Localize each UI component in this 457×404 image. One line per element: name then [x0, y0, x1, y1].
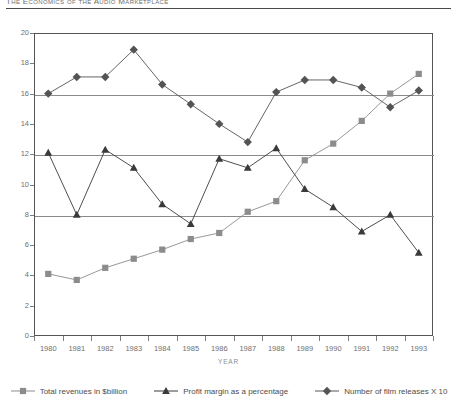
data-point-marker [187, 220, 195, 227]
y-axis-tick-label: 8 [7, 211, 29, 219]
data-point-marker [74, 277, 80, 283]
x-axis-tick [376, 336, 377, 341]
chart-container: 02468101214161820 1980198119821983198419… [0, 11, 457, 371]
y-axis-tick-label: 10 [7, 181, 29, 189]
legend-square-icon [10, 385, 36, 397]
data-point-marker [415, 86, 423, 94]
series-line [48, 74, 419, 280]
data-point-marker [358, 83, 366, 91]
y-axis-tick-label: 6 [7, 241, 29, 249]
legend-triangle-icon [153, 385, 179, 397]
y-axis-tick-label: 12 [7, 150, 29, 158]
x-axis-tick [291, 336, 292, 341]
y-axis-tick-label: 0 [7, 332, 29, 340]
data-point-marker [329, 203, 337, 210]
data-point-marker [73, 73, 81, 81]
x-axis-tick [405, 336, 406, 341]
data-point-marker [329, 76, 337, 84]
data-point-marker [273, 198, 279, 204]
legend-item[interactable]: Profit margin as a percentage [153, 385, 288, 397]
x-axis-tick [34, 336, 35, 341]
legend-item[interactable]: Number of film releases X 10 [314, 385, 447, 397]
x-axis-tick [205, 336, 206, 341]
series-diamond [44, 45, 423, 146]
data-point-marker [272, 88, 280, 96]
y-axis-tick-label: 2 [7, 302, 29, 310]
x-axis-tick [433, 336, 434, 341]
data-point-marker [130, 164, 138, 171]
chart-legend: Total revenues in $billionProfit margin … [0, 381, 457, 401]
data-point-marker [44, 149, 52, 156]
legend-diamond-icon [314, 385, 340, 397]
y-axis-tick-label: 14 [7, 120, 29, 128]
x-axis-tick [177, 336, 178, 341]
y-axis-tick-label: 20 [7, 29, 29, 37]
data-point-marker [358, 227, 366, 234]
data-point-marker [330, 140, 336, 146]
legend-label: Total revenues in $billion [40, 387, 128, 396]
data-point-marker [386, 103, 394, 111]
x-axis-tick [63, 336, 64, 341]
data-point-marker [159, 247, 165, 253]
data-point-marker [102, 265, 108, 271]
y-axis-tick-label: 16 [7, 90, 29, 98]
x-axis-tick [319, 336, 320, 341]
data-point-marker [301, 76, 309, 84]
data-point-marker [323, 387, 331, 395]
data-point-marker [301, 185, 309, 192]
data-point-marker [387, 91, 393, 97]
data-point-marker [245, 209, 251, 215]
y-axis-tick-label: 4 [7, 271, 29, 279]
x-axis-tick [148, 336, 149, 341]
x-axis-tick [262, 336, 263, 341]
x-axis-tick [91, 336, 92, 341]
data-point-marker [131, 256, 137, 262]
legend-label: Number of film releases X 10 [344, 387, 447, 396]
x-axis-tick-label: 1993 [402, 345, 436, 353]
data-point-marker [216, 230, 222, 236]
data-point-marker [187, 100, 195, 108]
running-head: The Economics of the Audio Marketplace [0, 0, 457, 11]
data-point-marker [244, 138, 252, 146]
series-square [45, 71, 422, 283]
x-axis-tick [234, 336, 235, 341]
x-axis-tick [348, 336, 349, 341]
data-point-marker [215, 120, 223, 128]
series-line [48, 148, 419, 253]
x-axis-tick [120, 336, 121, 341]
data-point-marker [45, 271, 51, 277]
data-point-marker [215, 155, 223, 162]
data-point-marker [302, 157, 308, 163]
data-point-marker [73, 211, 81, 218]
running-head-rule [6, 8, 451, 9]
x-axis-title: YEAR [0, 358, 457, 365]
series-triangle [44, 144, 422, 256]
data-point-marker [359, 118, 365, 124]
series-line [48, 50, 419, 142]
legend-label: Profit margin as a percentage [183, 387, 288, 396]
data-point-marker [386, 211, 394, 218]
running-head-text: The Economics of the Audio Marketplace [6, 0, 169, 6]
data-point-marker [272, 144, 280, 151]
data-point-marker [101, 146, 109, 153]
series-layer [34, 33, 433, 336]
legend-item[interactable]: Total revenues in $billion [10, 385, 128, 397]
data-point-marker [416, 71, 422, 77]
y-axis-tick-label: 18 [7, 59, 29, 67]
data-point-marker [188, 236, 194, 242]
data-point-marker [20, 388, 26, 394]
data-point-marker [44, 89, 52, 97]
